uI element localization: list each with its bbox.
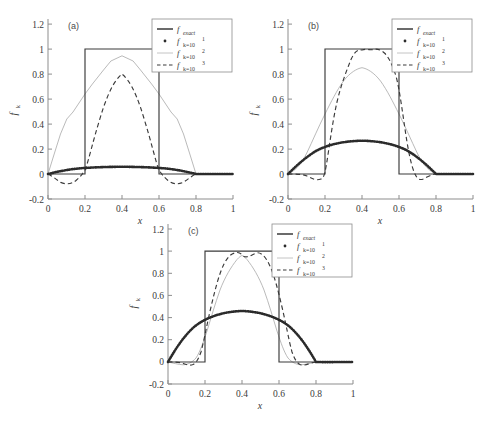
x-tick-label: 0.8	[310, 389, 322, 399]
y-tick-label: 0.4	[32, 120, 44, 130]
panel-a-content: 1.2 1 0.8 0.6 0.4 0.2 0 -0.2 0 0.2 0.4 0…	[8, 19, 236, 226]
y-axis-label: f k	[8, 105, 21, 115]
panel-tag-b: (b)	[308, 21, 319, 31]
x-tick-label: 0.2	[79, 204, 91, 214]
y-tick-label: 1.2	[152, 225, 164, 235]
subplot-c-svg: 1.2 1 0.8 0.6 0.4 0.2 0 -0.2 0 0.2 0.4 0…	[120, 212, 364, 422]
svg-text:k=10: k=10	[423, 66, 435, 72]
y-tick-label: 0.2	[32, 145, 44, 155]
x-axis-label: x	[257, 400, 263, 411]
y-axis-label: f k	[248, 105, 261, 115]
svg-text:2: 2	[322, 253, 325, 259]
svg-text:k=10: k=10	[183, 42, 195, 48]
x-tick-label: 0	[46, 204, 51, 214]
curve-k1e2	[288, 68, 473, 174]
y-tick-label: -0.2	[29, 195, 44, 205]
x-ticks	[288, 195, 473, 199]
svg-text:k=10: k=10	[423, 42, 435, 48]
legend-a[interactable]: f exact f k=10 1 f k=10 2 f	[152, 19, 232, 72]
subplot-c: 1.2 1 0.8 0.6 0.4 0.2 0 -0.2 0 0.2 0.4 0…	[120, 212, 364, 422]
panel-tag-a: (a)	[68, 21, 79, 31]
subplot-a-svg: 1.2 1 0.8 0.6 0.4 0.2 0 -0.2 0 0.2 0.4 0…	[0, 2, 244, 234]
svg-text:3: 3	[322, 265, 325, 271]
y-tick-label: 0.6	[32, 95, 44, 105]
panel-tag-c: (c)	[188, 226, 199, 236]
svg-text:k=10: k=10	[423, 54, 435, 60]
panel-c-content: 1.2 1 0.8 0.6 0.4 0.2 0 -0.2 0 0.2 0.4 0…	[128, 224, 356, 411]
svg-text:k=10: k=10	[303, 271, 315, 277]
svg-text:k: k	[15, 105, 21, 108]
subplot-b: 1.2 1 0.8 0.6 0.4 0.2 0 -0.2 0 0.2 0.4 0…	[240, 2, 484, 234]
svg-text:exact: exact	[303, 235, 316, 241]
x-tick-label: 0.6	[273, 389, 285, 399]
svg-text:exact: exact	[423, 30, 436, 36]
svg-text:1: 1	[322, 241, 325, 247]
legend-marker-dot	[284, 245, 287, 248]
svg-text:f: f	[8, 111, 19, 115]
y-tick-label: 1	[39, 45, 44, 55]
svg-text:exact: exact	[183, 30, 196, 36]
svg-text:3: 3	[202, 60, 205, 66]
y-tick-label: 0.4	[272, 120, 284, 130]
subplot-a: 1.2 1 0.8 0.6 0.4 0.2 0 -0.2 0 0.2 0.4 0…	[0, 2, 244, 234]
x-ticks	[168, 380, 353, 384]
curve-k1e1	[288, 141, 473, 174]
y-tick-label: 0	[159, 357, 164, 367]
y-tick-label: 0.6	[152, 291, 164, 301]
y-axis-label: f k	[128, 298, 141, 308]
legend-marker-dot	[404, 40, 407, 43]
svg-text:k=10: k=10	[183, 54, 195, 60]
curve-k1e2	[48, 56, 233, 174]
subplot-b-svg: 1.2 1 0.8 0.6 0.4 0.2 0 -0.2 0 0.2 0.4 0…	[240, 2, 484, 234]
figure-canvas: 1.2 1 0.8 0.6 0.4 0.2 0 -0.2 0 0.2 0.4 0…	[0, 0, 484, 422]
y-tick-label: 1.2	[272, 20, 284, 30]
curve-k1e1	[48, 167, 233, 174]
x-tick-label: 0	[166, 389, 171, 399]
y-tick-label: 1	[159, 247, 164, 257]
x-ticks	[48, 195, 233, 199]
x-tick-label: 0.6	[393, 204, 405, 214]
y-tick-label: -0.2	[269, 195, 284, 205]
svg-text:1: 1	[442, 36, 445, 42]
y-tick-label: 0.6	[272, 95, 284, 105]
x-tick-label: 1	[471, 204, 476, 214]
svg-text:f: f	[128, 304, 139, 308]
y-tick-label: 0.2	[272, 145, 284, 155]
svg-text:1: 1	[202, 36, 205, 42]
svg-text:k: k	[135, 298, 141, 301]
y-tick-label: 0.4	[152, 313, 164, 323]
svg-text:k=10: k=10	[303, 247, 315, 253]
legend-c[interactable]: f exact f k=10 1 f k=10 2 f	[272, 224, 352, 277]
y-tick-label: 0	[279, 170, 284, 180]
svg-text:k=10: k=10	[183, 66, 195, 72]
x-tick-label: 0.4	[236, 389, 248, 399]
x-axis-label: x	[377, 215, 383, 226]
legend-marker-dot	[164, 40, 167, 43]
y-tick-label: 1	[279, 45, 284, 55]
x-tick-label: 1	[351, 389, 356, 399]
y-tick-label: 0.2	[152, 335, 164, 345]
svg-text:2: 2	[442, 48, 445, 54]
y-tick-label: 0	[39, 170, 44, 180]
y-tick-label: -0.2	[149, 380, 164, 390]
y-tick-label: 0.8	[272, 70, 284, 80]
svg-text:f: f	[248, 111, 259, 115]
curve-k1e1	[168, 311, 353, 362]
legend-b[interactable]: f exact f k=10 1 f k=10 2 f	[392, 19, 472, 72]
svg-text:k=10: k=10	[303, 259, 315, 265]
svg-text:3: 3	[442, 60, 445, 66]
svg-text:k: k	[255, 105, 261, 108]
x-tick-label: 0.8	[430, 204, 442, 214]
x-tick-label: 0.2	[199, 389, 211, 399]
y-tick-label: 0.8	[152, 269, 164, 279]
svg-text:2: 2	[202, 48, 205, 54]
y-tick-label: 0.8	[32, 70, 44, 80]
panel-b-content: 1.2 1 0.8 0.6 0.4 0.2 0 -0.2 0 0.2 0.4 0…	[248, 19, 476, 226]
y-tick-label: 1.2	[32, 20, 44, 30]
